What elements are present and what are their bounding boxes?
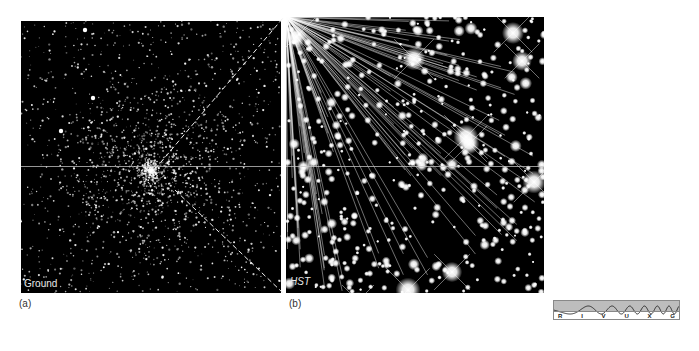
band-u: U [624, 312, 628, 320]
band-i: I [581, 312, 583, 320]
scan-line [21, 166, 281, 167]
caption-b: (b) [289, 298, 301, 309]
ground-label: Ground [24, 278, 57, 289]
band-g: G [670, 312, 675, 320]
star-field-ground [21, 21, 281, 293]
scan-line [286, 166, 544, 167]
hst-label: HST [290, 276, 310, 287]
caption-a: (a) [19, 298, 31, 309]
star-field-hst [286, 17, 544, 293]
spectrum-band-labels: R I V U X G [554, 311, 679, 319]
ground-image-panel: Ground [21, 21, 281, 293]
wave-icon [554, 301, 679, 311]
band-r: R [558, 312, 562, 320]
hst-image-panel: HST [286, 17, 544, 293]
band-x: X [648, 312, 652, 320]
band-v: V [602, 312, 606, 320]
spectrum-band-indicator: R I V U X G [553, 300, 680, 320]
